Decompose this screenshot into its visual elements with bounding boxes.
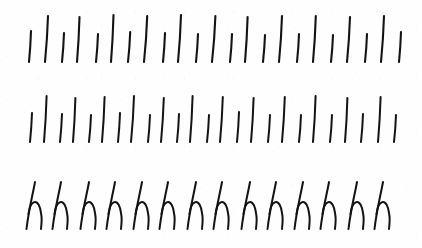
- pen-stroke: [378, 97, 381, 142]
- pen-stroke: [220, 97, 223, 142]
- pen-stroke: [230, 34, 232, 62]
- letter-h-arch: [270, 202, 283, 229]
- pen-stroke: [60, 114, 62, 142]
- pen-stroke: [118, 113, 120, 142]
- letter-h-arch: [190, 202, 203, 229]
- cursive-letter-h: [375, 182, 390, 229]
- pen-stroke: [77, 17, 80, 62]
- letter-h-arch: [244, 202, 257, 229]
- letter-h-arch: [351, 202, 364, 229]
- letter-h-arch: [29, 202, 42, 229]
- pen-stroke: [268, 115, 270, 142]
- pen-stroke: [148, 115, 150, 142]
- stroke-row-2: [0, 82, 422, 166]
- pen-stroke: [178, 15, 181, 62]
- stroke-row-2-canvas: [0, 82, 422, 166]
- pen-stroke: [251, 98, 254, 142]
- pen-stroke: [73, 98, 75, 142]
- cursive-letter-h: [53, 182, 68, 229]
- pen-stroke: [207, 115, 209, 142]
- letter-h-arch: [83, 202, 96, 229]
- pen-stroke: [44, 96, 47, 142]
- cursive-letter-h: [134, 182, 149, 229]
- pen-stroke: [345, 98, 347, 142]
- pen-stroke: [330, 115, 332, 142]
- cursive-letter-h: [107, 182, 122, 229]
- pen-stroke: [62, 33, 64, 62]
- pen-stroke: [102, 97, 105, 142]
- pen-stroke: [212, 16, 215, 62]
- cursive-letter-h: [349, 182, 364, 229]
- pen-stroke: [394, 115, 396, 142]
- pen-stroke: [89, 115, 91, 142]
- letter-h-arch: [162, 202, 175, 229]
- cursive-letter-h: [242, 182, 257, 229]
- letter-h-arch: [55, 202, 68, 229]
- letter-h-arch: [109, 202, 122, 229]
- pen-stroke: [177, 114, 179, 142]
- pen-stroke: [190, 96, 193, 142]
- pen-stroke: [313, 16, 316, 62]
- cursive-letter-h: [268, 182, 283, 229]
- pen-stroke: [163, 33, 165, 62]
- letter-h-arch: [136, 202, 149, 229]
- stroke-row-1-canvas: [0, 0, 422, 82]
- pen-stroke: [245, 17, 248, 62]
- pen-stroke: [29, 31, 31, 62]
- pen-stroke: [30, 113, 32, 142]
- cursive-letter-h: [160, 182, 175, 229]
- pen-stroke: [399, 32, 401, 62]
- letter-h-arch: [377, 202, 390, 229]
- pen-stroke: [237, 112, 239, 142]
- stroke-row-1: [0, 0, 422, 82]
- pen-stroke: [131, 96, 134, 142]
- pen-stroke: [365, 34, 367, 62]
- pen-stroke: [144, 16, 147, 62]
- letter-h-arch: [216, 202, 229, 229]
- cursive-letter-h: [214, 182, 229, 229]
- letter-row-3-canvas: [0, 166, 422, 248]
- letter-h-arch: [323, 202, 336, 229]
- pen-stroke: [279, 16, 282, 62]
- pen-stroke: [361, 114, 363, 142]
- cursive-letter-h: [81, 182, 96, 229]
- pen-stroke: [196, 34, 198, 62]
- cursive-letter-h: [188, 182, 203, 229]
- letter-h-arch: [297, 202, 310, 229]
- pen-stroke: [331, 35, 333, 62]
- cursive-letter-h: [321, 182, 336, 229]
- letter-row-3: [0, 166, 422, 248]
- pen-stroke: [347, 17, 350, 62]
- pen-stroke: [161, 98, 164, 142]
- cursive-letter-h: [295, 182, 310, 229]
- handwriting-practice-sheet: [0, 0, 422, 248]
- cursive-letter-h: [27, 182, 42, 229]
- pen-stroke: [381, 16, 384, 62]
- pen-stroke: [96, 34, 98, 62]
- pen-stroke: [111, 15, 114, 62]
- pen-stroke: [282, 97, 285, 142]
- pen-stroke: [45, 16, 48, 62]
- pen-stroke: [128, 32, 130, 62]
- pen-stroke: [263, 35, 265, 62]
- pen-stroke: [313, 96, 316, 142]
- pen-stroke: [299, 115, 301, 142]
- pen-stroke: [297, 34, 299, 62]
